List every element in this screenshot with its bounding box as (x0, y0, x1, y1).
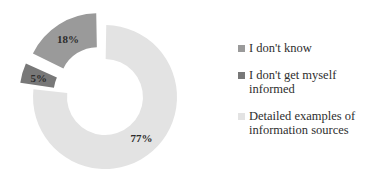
legend-item-detailed-examples[interactable]: Detailed examples of information sources (238, 109, 376, 137)
slice-label-detailed-examples: 77% (130, 132, 152, 144)
legend-swatch-icon (238, 72, 245, 79)
legend-item-dont-get-informed[interactable]: I don't get myself informed (238, 68, 376, 96)
legend-item-i-dont-know[interactable]: I don't know (238, 41, 376, 55)
chart-legend: I don't know I don't get myself informed… (238, 41, 376, 151)
doughnut-chart-figure: 18% 5% 77% I don't know I don't get myse… (0, 0, 376, 185)
slice-label-i-dont-know: 18% (57, 33, 79, 45)
legend-item-label: I don't know (249, 41, 312, 55)
doughnut-svg: 18% 5% 77% (0, 0, 230, 185)
slice-label-dont-get-informed: 5% (30, 72, 47, 84)
legend-swatch-icon (238, 113, 245, 120)
legend-swatch-icon (238, 45, 245, 52)
legend-item-label: I don't get myself informed (249, 68, 336, 96)
doughnut-plot-area: 18% 5% 77% (0, 0, 230, 185)
legend-item-label: Detailed examples of information sources (249, 109, 355, 137)
